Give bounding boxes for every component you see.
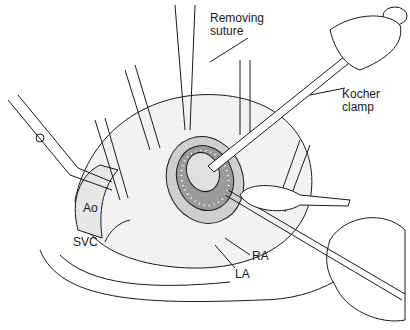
label-kocher-clamp: Kocher clamp [342, 88, 380, 114]
hand-lower [327, 218, 405, 321]
forceps-left [8, 95, 112, 190]
surgical-illustration [0, 0, 410, 330]
label-ao: Ao [83, 202, 98, 215]
label-la: LA [235, 268, 250, 281]
label-line: clamp [342, 101, 380, 114]
label-ra: RA [252, 250, 269, 263]
label-line: suture [210, 25, 264, 38]
label-removing-suture: Removing suture [210, 12, 264, 38]
removing-suture-leader [210, 38, 248, 62]
label-svc: SVC [73, 236, 98, 249]
